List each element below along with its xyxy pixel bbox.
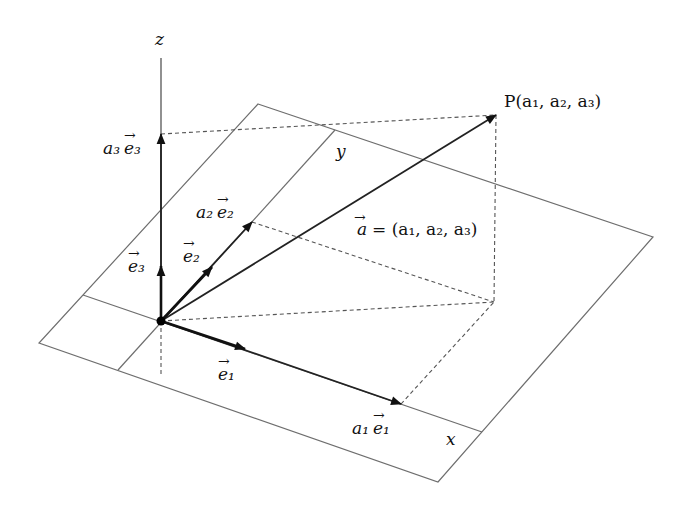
svg-text:a₃: a₃: [103, 138, 120, 158]
e1-label: → e₁: [218, 353, 235, 384]
point-P-label: P(a₁, a₂, a₃): [504, 91, 601, 111]
z-axis-label: z: [154, 29, 165, 49]
vector-diagram: z y x P(a₁, a₂, a₃) a → = (a₁, a₂, a₃) →…: [0, 0, 688, 517]
e1-vector: [161, 321, 245, 349]
x-axis-label: x: [446, 429, 456, 449]
y-axis-label: y: [335, 141, 346, 161]
a2e2-label: a₂ → e₂: [196, 191, 234, 222]
svg-text:a₁: a₁: [352, 418, 369, 438]
xy-plane: [39, 104, 653, 482]
vector-arrow-over-a: →: [354, 209, 366, 225]
vector-a-label: a → = (a₁, a₂, a₃): [354, 209, 477, 239]
svg-text:= (a₁, a₂, a₃): = (a₁, a₂, a₃): [372, 219, 477, 239]
a3e3-label: a₃ → e₃: [103, 127, 141, 158]
svg-text:e₃: e₃: [124, 138, 141, 158]
svg-text:e₂: e₂: [183, 246, 200, 266]
dashed-P-to-foot: [494, 115, 496, 302]
svg-text:e₂: e₂: [217, 202, 234, 222]
e3-label: → e₃: [128, 245, 145, 276]
svg-text:a₂: a₂: [196, 202, 213, 222]
e2-label: → e₂: [183, 235, 200, 266]
svg-text:e₁: e₁: [218, 364, 235, 384]
dashed-origin-to-foot: [161, 302, 494, 321]
svg-text:e₁: e₁: [373, 418, 390, 438]
dashed-a3-to-P: [161, 115, 496, 134]
origin-point: [157, 317, 166, 326]
a1e1-label: a₁ → e₁: [352, 407, 390, 438]
dashed-a1-to-foot: [401, 302, 494, 404]
svg-text:e₃: e₃: [128, 256, 145, 276]
